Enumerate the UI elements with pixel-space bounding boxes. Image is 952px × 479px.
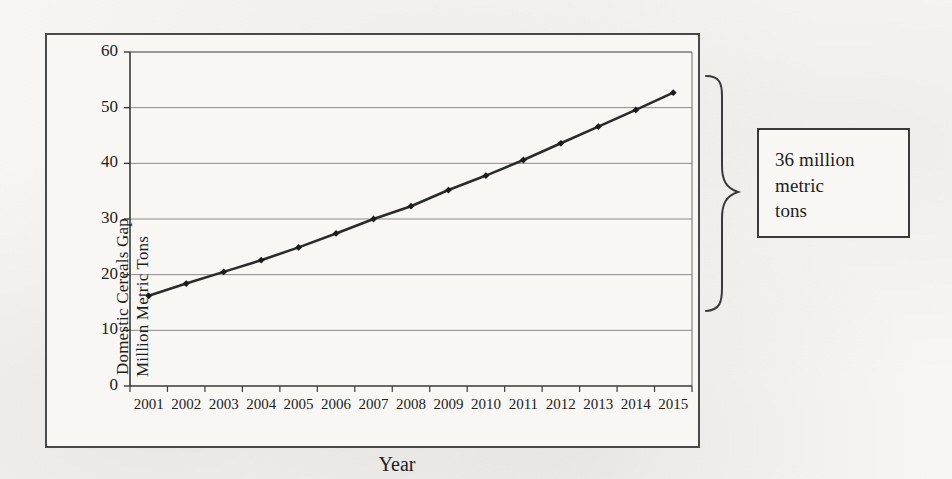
gap-annotation-box: 36 million metric tons	[757, 128, 910, 238]
x-axis-title: Year	[47, 453, 747, 476]
annotation-line-3: tons	[775, 198, 908, 224]
annotation-line-2: metric	[775, 173, 908, 199]
chart-frame: 0102030405060 20012002200320042005200620…	[45, 33, 700, 448]
y-axis-title: Domestic Cereals Gap Million Metric Tons	[93, 130, 133, 380]
y-tick-label: 60	[84, 41, 118, 61]
y-tick-label: 50	[84, 97, 118, 117]
x-tick-group	[130, 386, 692, 392]
chart-page: 0102030405060 20012002200320042005200620…	[0, 0, 952, 479]
y-axis-title-line2: Million Metric Tons	[133, 236, 153, 377]
x-tick-label: 2015	[650, 396, 696, 413]
annotation-line-1: 36 million	[775, 147, 908, 173]
y-axis-title-line1: Domestic Cereals Gap	[113, 218, 133, 375]
